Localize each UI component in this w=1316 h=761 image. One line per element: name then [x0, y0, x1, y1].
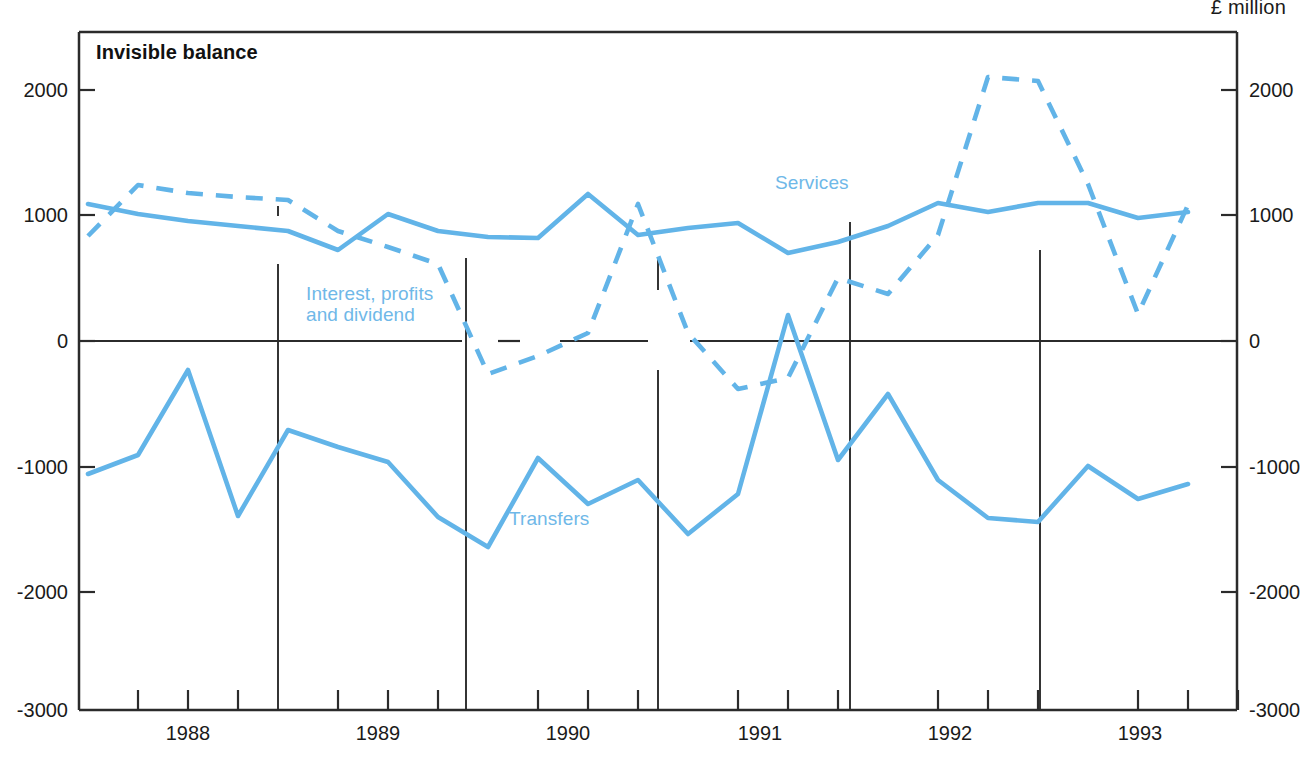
chart-root: £ million Invisible balance — [0, 0, 1316, 761]
y-tick-label-right-m3000: -3000 — [1249, 699, 1300, 722]
y-tick-label-right-1000: 1000 — [1249, 204, 1294, 227]
x-tick-label-1988: 1988 — [138, 722, 238, 745]
x-tick-label-1989: 1989 — [328, 722, 428, 745]
series-label-transfers: Transfers — [509, 508, 589, 529]
chart-canvas — [0, 0, 1316, 761]
y-tick-label-left-m2000: -2000 — [0, 581, 68, 604]
y-tick-label-right-0: 0 — [1249, 330, 1260, 353]
series-transfers — [88, 315, 1188, 547]
y-axis-ticks-left — [79, 90, 95, 592]
x-tick-label-1992: 1992 — [900, 722, 1000, 745]
y-tick-label-right-m1000: -1000 — [1249, 456, 1300, 479]
x-tick-label-1993: 1993 — [1090, 722, 1190, 745]
x-tick-label-1991: 1991 — [710, 722, 810, 745]
x-axis-quarter-ticks — [138, 690, 1238, 710]
y-axis-ticks-right — [1221, 90, 1237, 592]
y-tick-label-right-m2000: -2000 — [1249, 581, 1300, 604]
series-label-interest: Interest, profits and dividend — [306, 283, 433, 326]
y-tick-label-left-0: 0 — [0, 330, 68, 353]
y-tick-label-right-2000: 2000 — [1249, 79, 1294, 102]
y-tick-label-left-2000: 2000 — [0, 79, 68, 102]
series-label-services: Services — [775, 172, 849, 193]
y-tick-label-left-1000: 1000 — [0, 204, 68, 227]
y-tick-label-left-m1000: -1000 — [0, 456, 68, 479]
y-tick-label-left-m3000: -3000 — [0, 699, 68, 722]
x-tick-label-1990: 1990 — [518, 722, 618, 745]
